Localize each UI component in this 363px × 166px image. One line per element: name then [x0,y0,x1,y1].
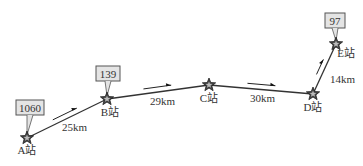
station-name: B站 [101,105,119,118]
passenger-count: 1060 [19,102,42,114]
arrowhead-icon [270,83,275,86]
station-name: D站 [304,100,323,113]
segment-distance-label: 29km [150,95,176,107]
segment-distance-label: 30km [250,92,276,104]
route-diagram: 106013997 25km29km30km14kmA站B站C站D站E站 [0,0,363,166]
station-name: C站 [200,91,218,104]
count-boxes: 106013997 [16,13,345,135]
callout-pointer [27,115,33,135]
station-name: E站 [337,46,355,59]
station-name: A站 [18,143,37,156]
passenger-count: 139 [100,68,117,80]
direction-arrows [53,59,324,119]
segment-distance-label: 14km [330,73,356,85]
route-map: 106013997 25km29km30km14kmA站B站C站D站E站 [0,0,363,166]
segment-distance-label: 25km [62,121,88,133]
passenger-count: 97 [330,15,342,27]
labels: 25km29km30km14kmA站B站C站D站E站 [18,46,356,156]
route-segment [313,44,336,94]
